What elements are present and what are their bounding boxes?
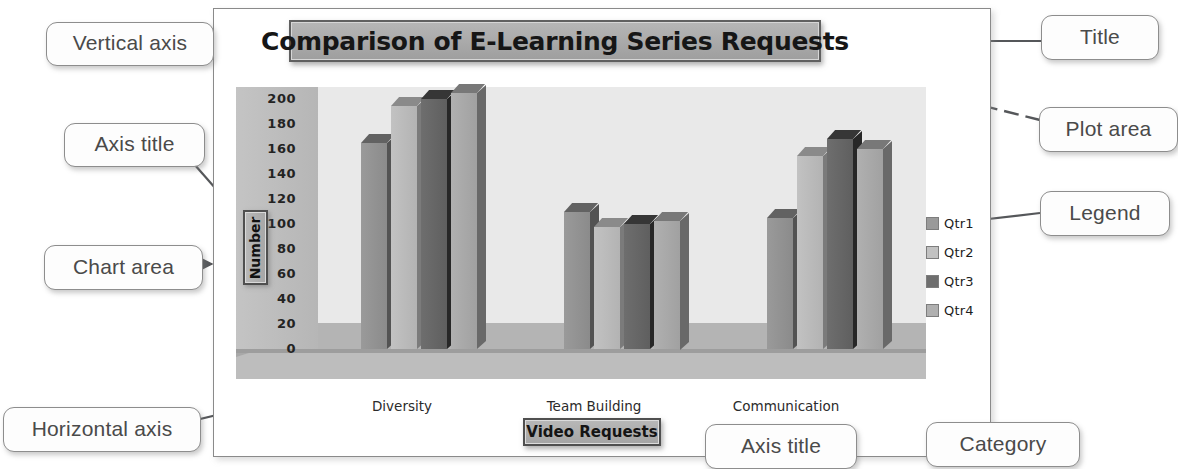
callout-legend-label: Legend	[1069, 201, 1140, 225]
callout-plot-area[interactable]: Plot area	[1039, 107, 1178, 152]
bar-face	[654, 221, 680, 350]
bar-side	[680, 212, 689, 349]
legend-swatch-icon	[926, 246, 939, 259]
callout-vertical-axis[interactable]: Vertical axis	[46, 22, 214, 66]
bar-face	[421, 99, 447, 349]
y-axis-tick: 180	[252, 116, 296, 131]
legend-swatch-icon	[926, 304, 939, 317]
callout-horizontal-axis-label: Horizontal axis	[32, 417, 173, 441]
category-label-communication: Communication	[696, 398, 876, 414]
bar-diversity-qtr4[interactable]	[451, 93, 477, 349]
y-axis-tick: 200	[252, 91, 296, 106]
chart-title-text: Comparison of E-Learning Series Requests	[261, 27, 849, 56]
bar-team-building-qtr3[interactable]	[624, 224, 650, 349]
callout-axis-title-bottom[interactable]: Axis title	[705, 424, 857, 469]
chart-title[interactable]: Comparison of E-Learning Series Requests	[289, 20, 821, 62]
horizontal-axis-title[interactable]: Video Requests	[523, 418, 661, 446]
legend[interactable]: Qtr1Qtr2Qtr3Qtr4	[926, 209, 998, 325]
legend-label: Qtr1	[944, 216, 974, 231]
bar-team-building-qtr1[interactable]	[564, 212, 590, 349]
callout-vertical-axis-label: Vertical axis	[73, 31, 188, 55]
bar-face	[857, 149, 883, 349]
legend-item-qtr4[interactable]: Qtr4	[926, 296, 998, 325]
bar-face	[564, 212, 590, 349]
bar-team-building-qtr2[interactable]	[594, 227, 620, 349]
y-axis-tick: 20	[252, 316, 296, 331]
legend-item-qtr2[interactable]: Qtr2	[926, 238, 998, 267]
vertical-axis-title[interactable]: Number	[243, 210, 268, 285]
legend-label: Qtr3	[944, 274, 974, 289]
bar-face	[361, 143, 387, 349]
y-axis-tick: 40	[252, 291, 296, 306]
bars-layer	[318, 87, 926, 349]
bar-face	[451, 93, 477, 349]
y-axis-tick: 140	[252, 166, 296, 181]
callout-category[interactable]: Category	[926, 422, 1080, 467]
legend-item-qtr1[interactable]: Qtr1	[926, 209, 998, 238]
vertical-axis-title-text: Number	[248, 216, 264, 279]
y-axis-tick: 0	[252, 341, 296, 356]
category-label-team-building: Team Building	[514, 398, 674, 414]
callout-legend[interactable]: Legend	[1040, 191, 1170, 236]
callout-axis-title-left-label: Axis title	[94, 132, 174, 156]
callout-axis-title-bottom-label: Axis title	[741, 434, 821, 458]
bar-face	[797, 156, 823, 349]
bar-communication-qtr1[interactable]	[767, 218, 793, 349]
bar-diversity-qtr1[interactable]	[361, 143, 387, 349]
bar-communication-qtr2[interactable]	[797, 156, 823, 349]
bar-communication-qtr4[interactable]	[857, 149, 883, 349]
legend-swatch-icon	[926, 217, 939, 230]
callout-chart-area[interactable]: Chart area	[44, 245, 203, 290]
callout-category-label: Category	[960, 432, 1047, 456]
callout-title[interactable]: Title	[1041, 15, 1159, 60]
plot-area[interactable]	[236, 87, 926, 379]
callout-axis-title-left[interactable]: Axis title	[64, 123, 205, 167]
y-axis-tick: 160	[252, 141, 296, 156]
bar-face	[624, 224, 650, 349]
bar-team-building-qtr4[interactable]	[654, 221, 680, 350]
category-label-diversity: Diversity	[332, 398, 472, 414]
legend-label: Qtr4	[944, 303, 974, 318]
legend-label: Qtr2	[944, 245, 974, 260]
bar-face	[767, 218, 793, 349]
callout-chart-area-label: Chart area	[73, 255, 174, 279]
bar-diversity-qtr2[interactable]	[391, 106, 417, 349]
chart-area[interactable]: Comparison of E-Learning Series Requests…	[213, 8, 991, 457]
bar-face	[594, 227, 620, 349]
horizontal-axis-title-text: Video Requests	[526, 423, 657, 441]
callout-horizontal-axis[interactable]: Horizontal axis	[3, 407, 201, 452]
legend-item-qtr3[interactable]: Qtr3	[926, 267, 998, 296]
bar-diversity-qtr3[interactable]	[421, 99, 447, 349]
bar-face	[391, 106, 417, 349]
callout-plot-area-label: Plot area	[1066, 117, 1152, 141]
y-axis-tick: 120	[252, 191, 296, 206]
bar-communication-qtr3[interactable]	[827, 139, 853, 349]
callout-title-label: Title	[1080, 25, 1120, 49]
bar-side	[477, 85, 486, 349]
bar-face	[827, 139, 853, 349]
legend-swatch-icon	[926, 275, 939, 288]
bar-side	[883, 141, 892, 349]
